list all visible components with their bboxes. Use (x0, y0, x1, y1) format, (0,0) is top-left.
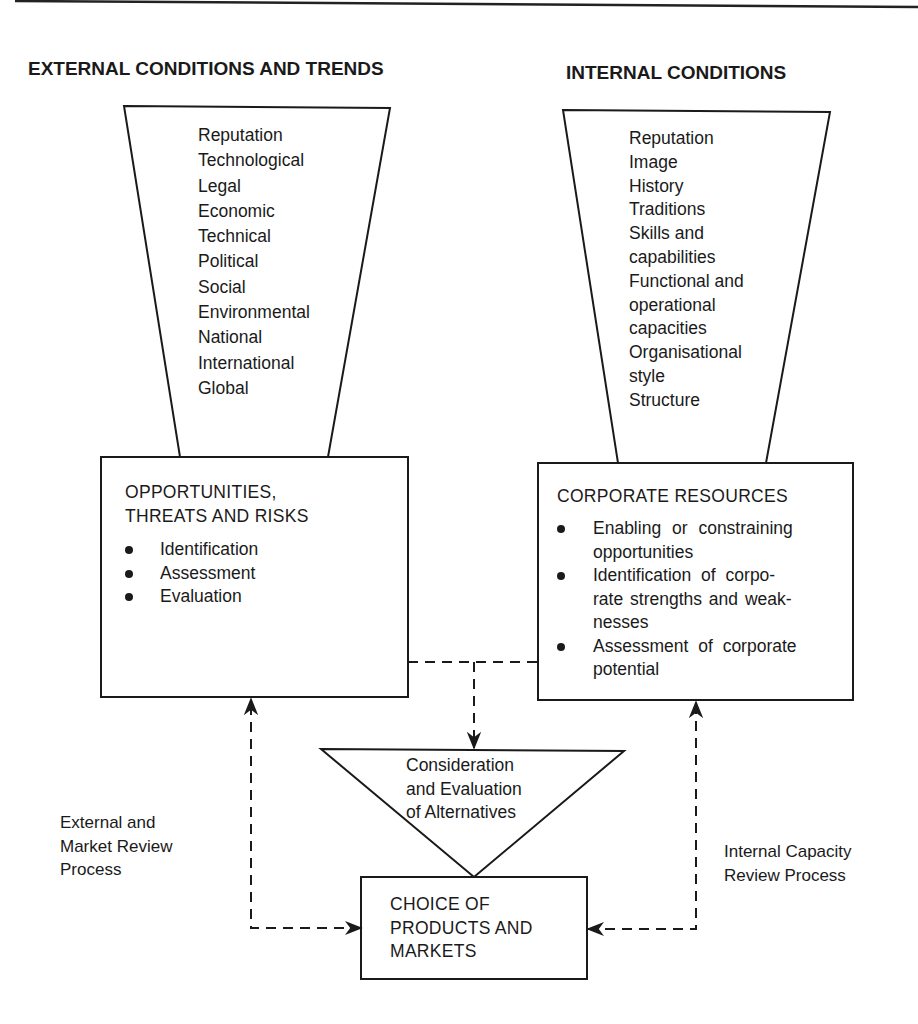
external-item: Reputation (198, 123, 310, 148)
internal-item: Functional and (629, 270, 744, 294)
bullet-dot-icon (125, 546, 133, 554)
external-item: International (198, 351, 310, 376)
internal-item: History (629, 175, 744, 199)
external-review-label: External and Market Review Process (60, 811, 172, 882)
internal-item: Traditions (629, 198, 744, 222)
external-conditions-heading: EXTERNAL CONDITIONS AND TRENDS (28, 58, 384, 80)
opportunities-bullets: Identification Assessment Evaluation (125, 538, 385, 609)
internal-item: Structure (629, 389, 744, 413)
opportunities-box-title: OPPORTUNITIES, THREATS AND RISKS (125, 481, 309, 528)
internal-item: Skills and (629, 222, 744, 246)
external-item: Technical (198, 224, 310, 249)
external-item: Technological (198, 148, 310, 173)
alternatives-triangle-text: Consideration and Evaluation of Alternat… (406, 754, 522, 825)
external-item: Social (198, 275, 310, 300)
external-item: Global (198, 376, 310, 401)
internal-item: capabilities (629, 246, 744, 270)
bullet-item: Identification of corpo- rate strengths … (557, 564, 837, 635)
internal-item: Organisational (629, 341, 744, 365)
bullet-dot-icon (125, 593, 133, 601)
internal-item: Image (629, 151, 744, 175)
bullet-dot-icon (557, 572, 565, 580)
external-review-loop (251, 699, 361, 928)
internal-item: style (629, 365, 744, 389)
bullet-item: Identification (125, 538, 385, 562)
external-item: Legal (198, 174, 310, 199)
external-item: Economic (198, 199, 310, 224)
bullet-dot-icon (557, 525, 565, 533)
external-item: Political (198, 249, 310, 274)
bullet-dot-icon (557, 643, 565, 651)
choice-box-text: CHOICE OF PRODUCTS AND MARKETS (390, 893, 533, 964)
bullet-item: Assessment (125, 562, 385, 586)
internal-item: Reputation (629, 127, 744, 151)
external-funnel-list: Reputation Technological Legal Economic … (198, 123, 310, 401)
top-page-rule (15, 1, 918, 7)
resources-bullets: Enabling or constraining opportunities I… (557, 517, 837, 682)
bullet-dot-icon (125, 570, 133, 578)
internal-review-label: Internal Capacity Review Process (724, 840, 852, 887)
internal-conditions-heading: INTERNAL CONDITIONS (566, 62, 786, 84)
external-item: National (198, 325, 310, 350)
bullet-item: Assessment of corporate potential (557, 635, 837, 682)
bullet-item: Evaluation (125, 585, 385, 609)
internal-item: operational (629, 294, 744, 318)
external-item: Environmental (198, 300, 310, 325)
internal-funnel-list: Reputation Image History Traditions Skil… (629, 127, 744, 413)
internal-item: capacities (629, 317, 744, 341)
bullet-item: Enabling or constraining opportunities (557, 517, 837, 564)
internal-review-loop (588, 702, 696, 929)
resources-box-title: CORPORATE RESOURCES (557, 485, 788, 509)
